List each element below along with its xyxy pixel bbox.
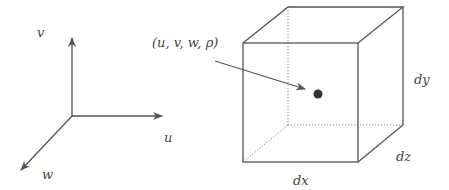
w-axis-arrow xyxy=(21,116,72,170)
fluid-particle-dot xyxy=(314,90,323,99)
control-volume-cube: dy dz dx xyxy=(243,7,430,188)
cube-right-face xyxy=(358,7,403,162)
cube-top-face xyxy=(243,7,403,43)
v-axis-label: v xyxy=(37,25,45,40)
pointer-arrow xyxy=(215,61,305,89)
dy-label: dy xyxy=(414,72,430,87)
cube-front-face xyxy=(243,43,358,162)
coordinate-axes: v u w xyxy=(21,25,172,182)
dz-label: dz xyxy=(396,149,411,164)
w-axis-label: w xyxy=(42,167,53,182)
u-axis-label: u xyxy=(164,130,172,145)
point-variables-label: (u, v, w, ρ) xyxy=(152,35,218,50)
dx-label: dx xyxy=(293,173,309,188)
fluid-element-diagram: v u w (u, v, w, ρ) dy dz dx xyxy=(0,0,449,190)
hidden-edge-depth xyxy=(243,125,288,162)
